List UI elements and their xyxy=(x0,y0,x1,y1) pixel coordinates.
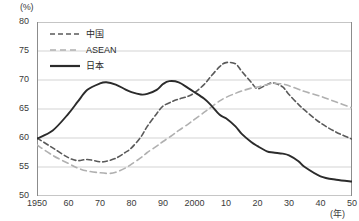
legend-label: ASEAN xyxy=(86,45,117,55)
x-tick-40: 40 xyxy=(304,198,338,208)
x-tick-80: 80 xyxy=(115,198,149,208)
x-tick-60: 60 xyxy=(52,198,86,208)
legend-swatch-icon xyxy=(50,29,80,39)
y-tick-75: 75 xyxy=(3,45,29,55)
y-axis-unit-label: (%) xyxy=(20,2,33,12)
y-tick-70: 70 xyxy=(3,74,29,84)
legend-label: 中国 xyxy=(86,27,104,40)
series-line-中国 xyxy=(37,62,352,162)
x-axis-unit-label: (年) xyxy=(330,207,345,220)
x-tick-50: 50 xyxy=(335,198,359,208)
legend-swatch-icon xyxy=(50,61,80,71)
legend: 中国ASEAN日本 xyxy=(50,27,117,72)
y-tick-80: 80 xyxy=(3,16,29,26)
legend-swatch-icon xyxy=(50,45,80,55)
y-tick-55: 55 xyxy=(3,161,29,171)
x-tick-70: 70 xyxy=(83,198,117,208)
y-tick-60: 60 xyxy=(3,132,29,142)
population-ratio-line-chart: (%) (年) 50556065707580 19506070809020001… xyxy=(0,0,359,221)
x-tick-2000: 2000 xyxy=(178,198,212,208)
y-tick-65: 65 xyxy=(3,103,29,113)
x-tick-1950: 1950 xyxy=(20,198,54,208)
series-line-日本 xyxy=(37,81,352,181)
legend-item-日本: 日本 xyxy=(50,59,117,72)
x-tick-30: 30 xyxy=(272,198,306,208)
x-tick-10: 10 xyxy=(209,198,243,208)
x-tick-90: 90 xyxy=(146,198,180,208)
x-tick-20: 20 xyxy=(241,198,275,208)
legend-item-中国: 中国 xyxy=(50,27,117,40)
legend-label: 日本 xyxy=(86,59,104,72)
legend-item-ASEAN: ASEAN xyxy=(50,43,117,56)
